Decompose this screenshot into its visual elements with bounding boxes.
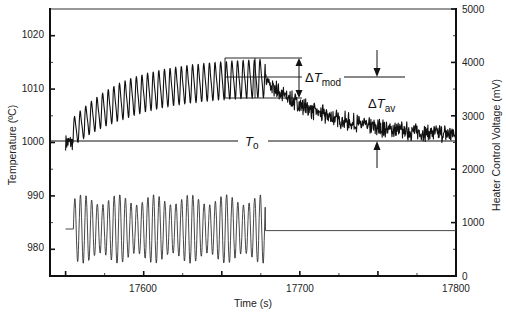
x-axis-title: Time (s) bbox=[234, 297, 272, 309]
y2-axis-title: Heater Control Voltage (mV) bbox=[490, 79, 502, 211]
y-tick-1000: 1000 bbox=[22, 136, 45, 147]
x-tick-17600: 17600 bbox=[129, 283, 157, 294]
y2-tick-4000: 4000 bbox=[462, 57, 485, 68]
y2-tick-labels: 5000 4000 3000 2000 1000 0 bbox=[462, 4, 485, 282]
y2-tick-1000: 1000 bbox=[462, 217, 485, 228]
y-tick-980: 980 bbox=[27, 242, 44, 253]
y-tick-labels: 1020 1010 1000 990 980 bbox=[22, 29, 45, 253]
y2-tick-3000: 3000 bbox=[462, 111, 485, 122]
baseline-To: To bbox=[50, 134, 456, 151]
y2-tick-5000: 5000 bbox=[462, 4, 485, 15]
x-tick-17700: 17700 bbox=[286, 283, 314, 294]
To-label: To bbox=[245, 134, 259, 151]
y-tick-1010: 1010 bbox=[22, 83, 45, 94]
y2-tick-2000: 2000 bbox=[462, 164, 485, 175]
delta-T-mod-arrow bbox=[296, 58, 303, 98]
y-axis-title: Temperature (ºC) bbox=[6, 105, 18, 185]
x-tick-labels: 17600 17700 17800 bbox=[129, 283, 470, 294]
temperature-trace bbox=[66, 59, 456, 150]
chart: 1020 1010 1000 990 980 5000 4000 3000 20… bbox=[0, 0, 506, 314]
x-tick-17800: 17800 bbox=[442, 283, 470, 294]
delta-T-mod-label: ΔTmod bbox=[305, 70, 341, 88]
delta-T-av-label: ΔTav bbox=[368, 96, 395, 114]
heater-voltage-trace bbox=[66, 195, 456, 263]
y-tick-990: 990 bbox=[27, 190, 44, 201]
y-tick-1020: 1020 bbox=[22, 29, 45, 40]
y2-tick-0: 0 bbox=[462, 271, 468, 282]
